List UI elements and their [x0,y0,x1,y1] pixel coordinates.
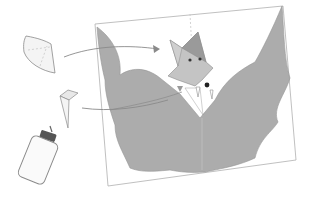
eye-right [198,57,201,60]
bat-craft-illustration [0,0,314,197]
eye-left [188,58,191,61]
paper-cone-piece [24,36,55,73]
paper-tooth-piece [60,90,78,128]
nose [205,83,210,88]
glue-bottle [17,126,59,186]
